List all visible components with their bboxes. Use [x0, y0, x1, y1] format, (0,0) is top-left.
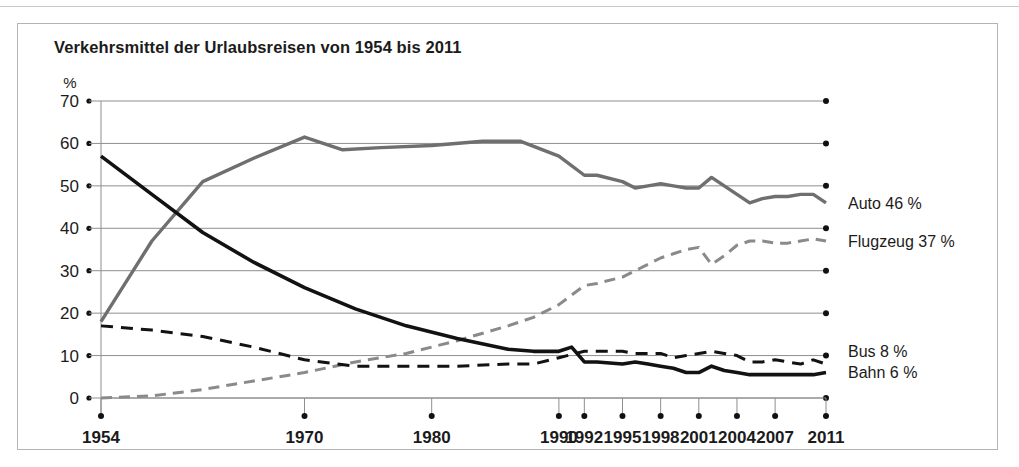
series-line-flugzeug	[101, 239, 826, 398]
y-tick-label: 30	[60, 262, 79, 281]
series-end-label-auto: Auto 46 %	[848, 195, 922, 212]
x-tick-label: 1970	[286, 428, 324, 447]
x-tick-dot	[658, 413, 664, 419]
y-axis-unit-label: %	[63, 74, 76, 91]
y-tick-label: 0	[70, 389, 79, 408]
y-tick-label: 70	[60, 92, 79, 111]
x-tick-label: 2004	[718, 428, 756, 447]
y-tick-dot-right	[823, 98, 829, 104]
x-tick-label: 2011	[808, 428, 845, 447]
y-tick-label: 20	[60, 304, 79, 323]
x-tick-dot	[302, 413, 308, 419]
x-tick-label: 2001	[680, 428, 718, 447]
x-tick-dot	[823, 413, 829, 419]
y-tick-dot-right	[823, 353, 829, 359]
page-top-rule	[0, 6, 1019, 7]
y-tick-dot-right	[823, 268, 829, 274]
y-tick-label: 50	[60, 177, 79, 196]
series-line-auto	[101, 137, 826, 322]
x-tick-dot	[98, 413, 104, 419]
x-tick-dot	[429, 413, 435, 419]
y-tick-label: 10	[60, 347, 79, 366]
data-series	[101, 137, 826, 398]
x-tick-dot	[734, 413, 740, 419]
x-tick-label: 1954	[82, 428, 120, 447]
x-axis-tick-labels: 1954197019801990199219951998200120042007…	[82, 398, 844, 447]
x-tick-label: 1992	[565, 428, 603, 447]
x-tick-label: 1980	[413, 428, 451, 447]
line-chart-plot: 010203040506070% 19541970198019901992199…	[18, 24, 999, 451]
x-tick-label: 2007	[756, 428, 794, 447]
series-end-labels: Auto 46 %Flugzeug 37 %Bus 8 %Bahn 6 %	[848, 195, 955, 382]
x-tick-label: 1995	[604, 428, 642, 447]
y-axis-tick-labels: 010203040506070%	[60, 74, 79, 408]
y-tick-dot-right	[823, 183, 829, 189]
x-tick-dot	[581, 413, 587, 419]
y-tick-label: 40	[60, 219, 79, 238]
series-end-label-bahn: Bahn 6 %	[848, 364, 917, 381]
x-tick-dot	[619, 413, 625, 419]
y-tick-dot-right	[823, 140, 829, 146]
y-tick-label: 60	[60, 134, 79, 153]
x-tick-label: 1998	[642, 428, 680, 447]
series-end-label-bus: Bus 8 %	[848, 343, 908, 360]
x-tick-dot	[556, 413, 562, 419]
x-tick-dot	[696, 413, 702, 419]
x-tick-dot	[772, 413, 778, 419]
series-line-bus	[101, 326, 826, 366]
series-end-label-flugzeug: Flugzeug 37 %	[848, 233, 955, 250]
series-line-bahn	[101, 156, 826, 375]
chart-frame: Verkehrsmittel der Urlaubsreisen von 195…	[17, 23, 998, 450]
y-tick-dot-right	[823, 310, 829, 316]
y-tick-dot-right	[823, 225, 829, 231]
